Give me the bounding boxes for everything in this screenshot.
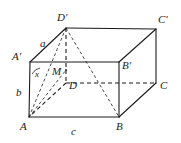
vertex-label-Dprime: D'	[57, 12, 67, 23]
vertex-label-Aprime: A'	[12, 51, 21, 62]
vertex-label-D: D	[69, 80, 77, 91]
prism-drawing-canvas	[0, 0, 181, 143]
construction-Dprime-B	[66, 28, 119, 117]
edge-D-A	[29, 83, 66, 117]
angle-label-x: x	[35, 70, 39, 79]
edge-Aprime-Dprime	[30, 28, 66, 62]
vertex-label-C: C	[160, 80, 167, 91]
vertex-dot-M	[65, 69, 67, 71]
vertex-label-B: B	[116, 121, 123, 132]
edge-Aprime-A	[29, 62, 30, 117]
vertex-label-M: M	[52, 66, 61, 77]
vertex-label-Cprime: C'	[158, 14, 168, 25]
geometry-figure: A B C D A' B' C' D' M a b c x	[0, 0, 181, 143]
edge-Dprime-Cprime	[66, 28, 156, 29]
vertex-label-Bprime: B'	[122, 60, 131, 71]
vertex-dot-group	[65, 69, 67, 71]
vertex-label-A: A	[20, 121, 27, 132]
edge-length-label-a: a	[40, 38, 46, 49]
edge-length-label-b: b	[16, 87, 22, 98]
edge-length-label-c: c	[71, 126, 76, 137]
edge-Bprime-Cprime	[119, 29, 156, 62]
edge-C-B	[119, 83, 156, 117]
